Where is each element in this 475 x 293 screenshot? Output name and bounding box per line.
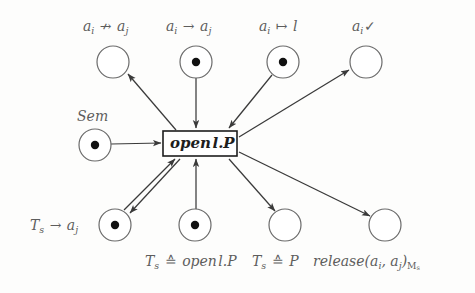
- place-label-sem: Sem: [77, 109, 108, 123]
- place-label-top-4: ai✓: [352, 19, 377, 35]
- token-place-top-2: [192, 58, 200, 66]
- arc-transition-to-place-top-4: [239, 70, 349, 137]
- transition-label: open l.P: [170, 136, 235, 151]
- arcs-group: [111, 70, 370, 216]
- place-label-bot-1: Ts → aj: [30, 218, 78, 234]
- token-place-bot-2: [191, 221, 199, 229]
- place-label-bot-4: release(ai, aj)Ms: [313, 254, 420, 272]
- place-label-top-2: ai → aj: [166, 19, 211, 35]
- place-label-top-1: ai ↛ aj: [83, 19, 128, 35]
- token-place-top-3: [279, 58, 287, 66]
- place-label-top-3: ai ↦ l: [259, 19, 298, 35]
- place-label-bot-2: Ts ≙ open l.P: [145, 254, 237, 270]
- arc-transition-to-place-bot-4: [239, 152, 370, 216]
- arc-transition-to-place-top-1: [128, 74, 176, 130]
- place-top-4[interactable]: [350, 46, 382, 78]
- place-bot-3[interactable]: [269, 209, 301, 241]
- arc-place-top-3-to-transition: [229, 75, 272, 128]
- token-place-bot-1: [111, 221, 119, 229]
- arc-transition-to-place-bot-1: [130, 159, 180, 213]
- petri-net-canvas: [0, 0, 475, 293]
- place-bot-4[interactable]: [369, 209, 401, 241]
- place-label-bot-3: Ts ≙ P: [252, 254, 299, 270]
- arc-place-bot-1-to-transition: [124, 159, 175, 210]
- token-place-sem: [91, 141, 99, 149]
- place-top-1[interactable]: [97, 46, 129, 78]
- arc-sem-to-transition: [111, 143, 161, 144]
